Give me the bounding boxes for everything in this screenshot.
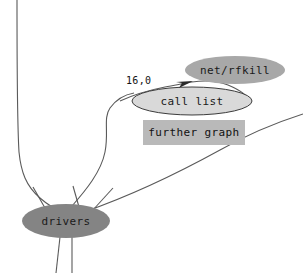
node-net-rfkill[interactable]: [185, 56, 285, 84]
edge-top-left-to-drivers: [17, 0, 62, 212]
node-call-list[interactable]: [132, 87, 252, 115]
edge-label-weight: 16,0: [126, 75, 151, 86]
edge-out-drivers-left: [56, 237, 60, 273]
edge-into-drivers-a: [33, 187, 45, 208]
nodes-group: [22, 56, 285, 238]
edge-drivers-to-call-list: [72, 93, 134, 206]
diagram-canvas: net/rfkill call list further graph drive…: [0, 0, 303, 278]
edge-into-drivers-c: [92, 188, 113, 211]
node-label-further-graph: further graph: [143, 120, 245, 145]
node-drivers[interactable]: [22, 204, 110, 238]
